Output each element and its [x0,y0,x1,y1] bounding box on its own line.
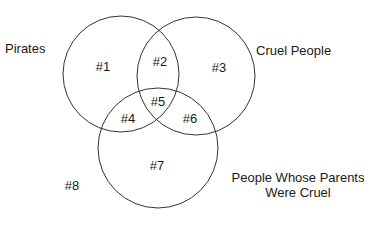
set-label-parents-cruel: People Whose Parents Were Cruel [212,170,379,200]
set-label-cruel-people: Cruel People [256,43,331,58]
set-label-parents-line2: Were Cruel [212,185,379,200]
region-1: #1 [96,59,110,74]
set-label-pirates: Pirates [5,41,45,56]
set-label-parents-line1: People Whose Parents [212,170,379,185]
region-5: #5 [151,94,165,109]
region-4: #4 [121,111,135,126]
region-2: #2 [153,54,167,69]
region-7: #7 [150,158,164,173]
region-6: #6 [183,111,197,126]
region-8: #8 [65,178,79,193]
region-3: #3 [212,60,226,75]
